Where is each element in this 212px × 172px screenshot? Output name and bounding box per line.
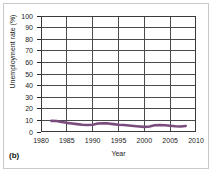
x-axis-tick-labels: 1980198519901995200020052010 (41, 137, 196, 147)
figure-panel: 0102030405060708090100 Unemployment rate… (0, 0, 212, 172)
x-axis-title: Year (41, 150, 196, 157)
y-axis-tick-label: 40 (25, 82, 33, 89)
x-axis-tick-label: 1985 (59, 137, 75, 144)
plot-area (41, 16, 196, 132)
y-axis-tick-label: 10 (25, 117, 33, 124)
x-axis-tick-label: 1990 (85, 137, 101, 144)
y-axis-tick-label: 20 (25, 105, 33, 112)
x-axis-tick-label: 2000 (137, 137, 153, 144)
y-axis-tick-label: 60 (25, 59, 33, 66)
x-axis-tick-label: 2005 (162, 137, 178, 144)
panel-label: (b) (9, 152, 19, 160)
x-axis-tick-label: 1995 (111, 137, 127, 144)
y-axis-tick-label: 80 (25, 36, 33, 43)
y-axis-title: Unemployment rate (%) (9, 0, 16, 104)
y-axis-ticks (33, 16, 41, 132)
x-axis-tick-label: 1980 (33, 137, 49, 144)
y-axis-tick-label: 70 (25, 47, 33, 54)
y-axis-tick-label: 50 (25, 71, 33, 78)
y-axis-tick-label: 100 (21, 13, 33, 20)
x-axis-tick-label: 2010 (188, 137, 204, 144)
y-axis-tick-label: 30 (25, 94, 33, 101)
y-axis-tick-label: 90 (25, 24, 33, 31)
plot-frame (41, 16, 196, 132)
